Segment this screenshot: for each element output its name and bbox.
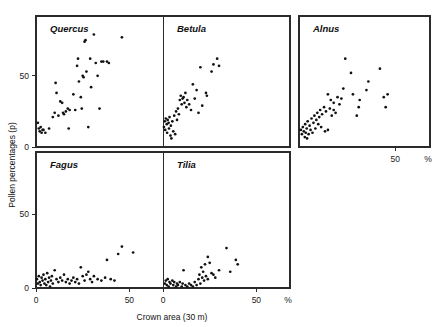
data-point: [173, 281, 176, 284]
data-point: [365, 89, 368, 92]
data-point: [201, 276, 204, 279]
data-point: [55, 92, 58, 95]
data-point: [193, 281, 196, 284]
data-point: [77, 57, 80, 60]
data-point: [367, 80, 370, 83]
data-point: [200, 266, 203, 269]
data-point: [44, 131, 47, 134]
data-point: [332, 102, 335, 105]
data-point: [321, 113, 324, 116]
data-point: [85, 273, 88, 276]
point-group-tilia: [164, 247, 240, 288]
panel-frame-alnus: [299, 16, 430, 147]
data-point: [57, 114, 60, 117]
data-point: [53, 111, 56, 114]
data-point: [39, 284, 42, 287]
data-point: [218, 64, 221, 67]
data-point: [182, 96, 185, 99]
axis-ticks: 050050050050%50%: [20, 71, 433, 305]
data-point: [51, 282, 54, 285]
data-point: [302, 126, 305, 129]
data-point: [87, 126, 90, 129]
data-point: [169, 134, 172, 137]
data-point: [117, 253, 120, 256]
data-point: [301, 133, 304, 136]
data-point: [307, 133, 310, 136]
data-point: [184, 92, 187, 95]
data-point: [192, 83, 195, 86]
data-point: [72, 276, 75, 279]
data-point: [218, 269, 221, 272]
data-point: [68, 282, 71, 285]
data-point: [38, 281, 41, 284]
data-point: [180, 103, 183, 106]
data-point: [49, 285, 52, 288]
data-point: [53, 269, 56, 272]
data-point: [300, 129, 303, 132]
data-point: [78, 80, 81, 83]
data-point: [208, 262, 211, 265]
x-axis-percent-bottom: %: [284, 295, 292, 305]
data-point: [330, 114, 333, 117]
data-point: [100, 279, 103, 282]
data-point: [317, 123, 320, 126]
data-point: [39, 126, 42, 129]
panel-labels: QuercusBetulaAlnusFagusTilia: [50, 23, 339, 170]
data-point: [314, 127, 317, 130]
data-point: [82, 76, 85, 79]
data-point: [202, 270, 205, 273]
data-point: [90, 86, 93, 89]
data-point: [48, 127, 51, 130]
data-point: [197, 278, 200, 281]
data-point: [65, 281, 68, 284]
data-point: [132, 251, 135, 254]
data-point: [98, 107, 101, 110]
x-axis-label: Crown area (30 m): [137, 312, 208, 322]
data-point: [320, 126, 323, 129]
data-point: [329, 99, 332, 102]
panel-title-quercus: Quercus: [50, 23, 89, 34]
data-point: [96, 278, 99, 281]
x-tick-label-alnus-50: 50: [391, 154, 401, 164]
data-point: [85, 70, 88, 73]
data-point: [214, 276, 217, 279]
y-tick-label-fagus-50: 50: [20, 209, 30, 219]
data-point: [306, 120, 309, 123]
data-point: [358, 99, 361, 102]
data-point: [308, 124, 311, 127]
data-point: [199, 282, 202, 285]
data-point: [68, 109, 71, 112]
data-point: [172, 130, 175, 133]
data-point: [382, 96, 385, 99]
data-point: [57, 281, 60, 284]
data-point: [70, 279, 73, 282]
data-point: [84, 39, 87, 42]
data-point: [54, 82, 57, 85]
data-point: [81, 275, 84, 278]
data-point: [65, 110, 68, 113]
data-point: [37, 121, 40, 124]
data-point: [205, 275, 208, 278]
data-point: [195, 89, 198, 92]
data-point: [63, 113, 66, 116]
data-point: [313, 114, 316, 117]
data-point: [212, 273, 215, 276]
data-point: [55, 278, 58, 281]
data-point: [76, 64, 79, 67]
data-point: [201, 104, 204, 107]
data-point: [212, 63, 215, 66]
x-axis-percent-alnus: %: [424, 154, 432, 164]
data-point: [169, 282, 172, 285]
data-point: [175, 110, 178, 113]
data-point: [323, 106, 326, 109]
point-group-alnus: [300, 57, 389, 139]
data-point: [169, 124, 172, 127]
x-tick-label-tilia-0: 0: [161, 295, 166, 305]
data-point: [352, 93, 355, 96]
data-point: [312, 121, 315, 124]
data-point: [121, 245, 124, 248]
data-point: [93, 33, 96, 36]
data-point: [357, 106, 360, 109]
data-point: [318, 116, 321, 119]
data-point: [177, 284, 180, 287]
